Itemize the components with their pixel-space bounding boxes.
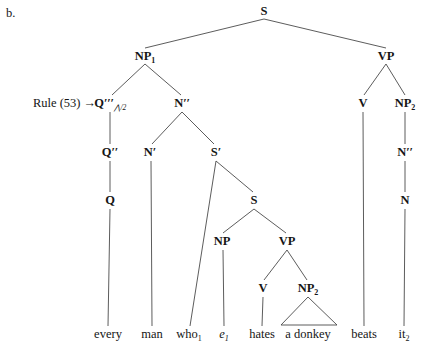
- node-label-text: Q: [102, 145, 112, 159]
- tree-node-Q3: Q′′′⋀/2: [94, 97, 126, 110]
- tree-edge-Sbar-to-S_emb: [216, 161, 253, 192]
- node-label-text: N: [397, 145, 406, 159]
- tree-node-NP2_obj: NP2: [395, 97, 416, 110]
- tree-node-NP_emb: NP: [214, 235, 231, 248]
- tree-terminal-t_donkey: a donkey: [285, 328, 330, 341]
- tree-node-N0_obj: N: [400, 194, 409, 207]
- tree-edge-VP_main-to-NP2_obj: [386, 64, 405, 95]
- node-bar-level: ′′: [183, 96, 190, 110]
- tree-edge-V_emb-to-t_hates: [262, 297, 263, 326]
- node-label-text: VP: [279, 234, 296, 248]
- tree-node-N1: N′: [144, 146, 156, 159]
- terminal-text: every: [94, 327, 122, 341]
- node-label-text: VP: [378, 49, 395, 63]
- node-label-text: NP: [214, 234, 231, 248]
- tree-edge-S-to-NP1: [145, 19, 264, 48]
- tree-edge-S_emb-to-VP_emb: [254, 209, 286, 233]
- terminal-index-subscript: 1: [225, 333, 229, 342]
- tree-edge-VP_main-to-V_main: [364, 64, 386, 95]
- node-label-text: V: [258, 281, 267, 295]
- tree-node-S_emb: S: [251, 194, 258, 207]
- tree-node-S: S: [261, 5, 268, 18]
- tree-node-VP_main: VP: [378, 50, 395, 63]
- tree-terminal-t_beats: beats: [351, 328, 377, 341]
- node-rule-subscript: ⋀/2: [114, 103, 126, 112]
- tree-node-V_main: V: [358, 97, 367, 110]
- terminal-index-subscript: 2: [405, 333, 409, 342]
- terminal-text: who: [176, 327, 198, 341]
- tree-edge-N2-to-Sbar: [182, 112, 214, 144]
- tree-edge-NP1-to-N2: [145, 64, 181, 95]
- tree-node-Q0: Q: [105, 194, 115, 207]
- terminal-text: man: [141, 327, 163, 341]
- tree-node-N2: N′′: [174, 97, 190, 110]
- node-label-text: Q: [94, 96, 104, 110]
- node-label-text: S: [211, 145, 218, 159]
- node-label-text: NP: [395, 96, 412, 110]
- tree-edge-S-to-VP_main: [264, 19, 386, 48]
- terminal-text: beats: [351, 327, 377, 341]
- tree-edge-NP1-to-Q3: [112, 64, 145, 95]
- tree-node-Sbar: S′: [211, 146, 221, 159]
- tree-node-N2_obj: N′′: [397, 146, 413, 159]
- node-label-text: NP: [298, 281, 315, 295]
- phrase-triangle-tri_donkey: [281, 297, 337, 325]
- tree-terminal-t_e: e1: [219, 328, 229, 341]
- tree-node-V_emb: V: [258, 282, 267, 295]
- tree-edge-V_main-to-t_beats: [363, 112, 364, 326]
- tree-edges-canvas: [0, 0, 425, 347]
- tree-edge-N2-to-N1: [152, 112, 182, 144]
- tree-node-NP2_emb: NP2: [298, 282, 319, 295]
- node-label-text: N: [174, 96, 183, 110]
- tree-terminal-t_hates: hates: [249, 328, 275, 341]
- node-index-subscript: 2: [411, 102, 415, 111]
- node-label-text: NP: [135, 49, 152, 63]
- node-bar-level: ′: [153, 145, 156, 159]
- tree-edge-N0_obj-to-t_it: [404, 209, 405, 326]
- node-bar-level: ′′′: [104, 96, 114, 110]
- terminal-index-subscript: 1: [198, 333, 202, 342]
- node-bar-level: ′′: [112, 145, 119, 159]
- node-bar-level: ′: [218, 145, 221, 159]
- node-label-text: S: [251, 193, 258, 207]
- node-label-text: V: [358, 96, 367, 110]
- tree-edge-VP_emb-to-V_emb: [264, 250, 287, 280]
- terminal-text: a donkey: [285, 327, 330, 341]
- tree-edge-Sbar-to-t_who: [190, 161, 216, 326]
- node-label-text: N: [400, 193, 409, 207]
- tree-node-NP1: NP1: [135, 50, 156, 63]
- terminal-text: e: [219, 327, 225, 341]
- node-label-text: N: [144, 145, 153, 159]
- node-label-text: Q: [105, 193, 115, 207]
- tree-terminal-t_who: who1: [176, 328, 202, 341]
- tree-edge-N1-to-t_man: [151, 161, 152, 326]
- tree-terminal-t_it: it2: [399, 328, 410, 341]
- tree-edge-S_emb-to-NP_emb: [223, 209, 254, 233]
- node-index-subscript: 1: [151, 55, 155, 64]
- node-label-text: S: [261, 4, 268, 18]
- tree-terminal-t_every: every: [94, 328, 122, 341]
- tree-node-Q2: Q′′: [102, 146, 118, 159]
- node-bar-level: ′′: [406, 145, 413, 159]
- terminal-text: hates: [249, 327, 275, 341]
- terminal-text: it: [399, 327, 406, 341]
- tree-terminal-t_man: man: [141, 328, 163, 341]
- tree-edge-VP_emb-to-NP2_emb: [287, 250, 307, 280]
- tree-edge-Q0-to-t_every: [108, 209, 110, 326]
- tree-edge-NP_emb-to-t_e: [223, 250, 224, 326]
- tree-node-VP_emb: VP: [279, 235, 296, 248]
- syntax-tree-figure: b. Rule (53)→ SNP1VPQ′′′⋀/2N′′VNP2Q′′N′S…: [0, 0, 425, 347]
- node-index-subscript: 2: [314, 287, 318, 296]
